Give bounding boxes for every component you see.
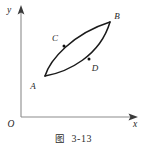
point-marker-c xyxy=(63,45,66,48)
point-label-b: B xyxy=(114,11,120,21)
curve-upper-arc xyxy=(45,22,110,76)
origin-label: O xyxy=(8,119,15,129)
y-axis-label: y xyxy=(6,5,12,15)
figure-caption-label: 图 xyxy=(55,133,66,144)
curve-lower-arc xyxy=(45,22,110,76)
x-axis-label: x xyxy=(132,119,138,129)
point-label-c: C xyxy=(52,33,59,43)
figure-caption: 图3-13 xyxy=(0,131,147,145)
point-marker-d xyxy=(88,58,91,61)
point-label-a: A xyxy=(29,81,36,91)
point-label-d: D xyxy=(91,63,99,73)
figure-container: y x O A B C D 图3-13 xyxy=(0,0,147,155)
figure-caption-number: 3-13 xyxy=(72,133,92,144)
